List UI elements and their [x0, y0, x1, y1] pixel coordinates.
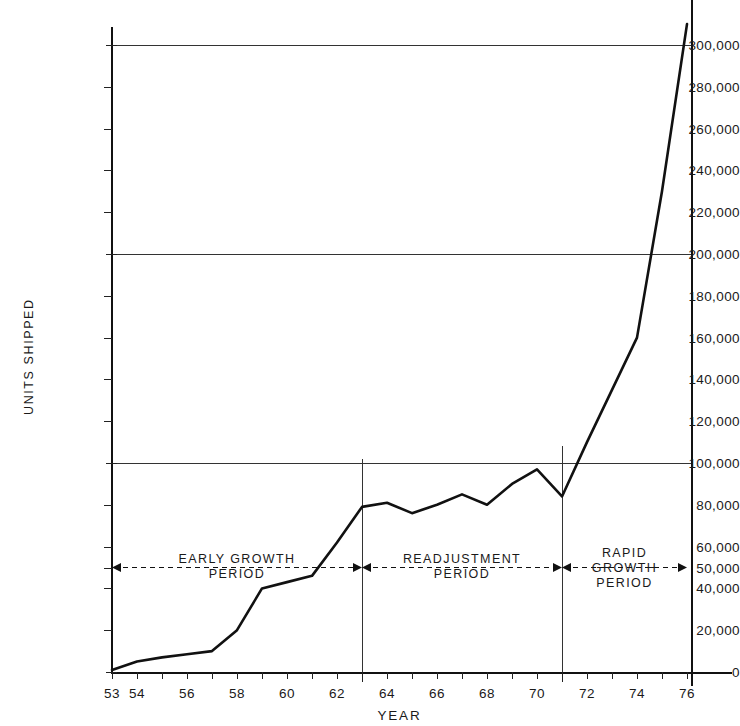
gridline-100000 [112, 463, 691, 464]
annotation-arrowhead [362, 563, 371, 572]
x-tick-64 [387, 672, 388, 679]
annotation-arrowhead [353, 563, 362, 572]
y-tick-100000 [106, 463, 117, 464]
x-tick-63 [362, 672, 363, 682]
x-tick-57 [212, 672, 213, 679]
y-tick-label-80000: 80,000 [642, 497, 740, 512]
gridline-300000 [112, 45, 691, 46]
y-tick-label-120000: 120,000 [642, 414, 740, 429]
period-divider-63 [362, 459, 363, 672]
x-tick-56 [187, 672, 188, 679]
x-tick-59 [262, 672, 263, 679]
x-tick-62 [337, 672, 338, 679]
chart-root: UNITS SHIPPED 020,00040,00050,00060,0008… [0, 0, 740, 726]
y-tick-label-280000: 280,000 [642, 79, 740, 94]
y-axis-line [111, 27, 113, 674]
y-tick-60000 [104, 547, 112, 548]
x-tick-71 [562, 672, 563, 682]
y-tick-label-240000: 240,000 [642, 163, 740, 178]
x-tick-58 [237, 672, 238, 679]
x-tick-66 [437, 672, 438, 679]
x-tick-label-68: 68 [479, 686, 495, 701]
x-axis-line [112, 672, 732, 674]
y-tick-300000 [106, 45, 117, 46]
period-divider-71 [562, 446, 563, 672]
x-tick-label-62: 62 [329, 686, 345, 701]
y-tick-label-300000: 300,000 [642, 38, 740, 53]
x-tick-65 [412, 672, 413, 679]
x-tick-label-66: 66 [429, 686, 445, 701]
annotation-arrowhead [562, 563, 571, 572]
y-tick-240000 [104, 170, 112, 171]
x-tick-label-74: 74 [629, 686, 645, 701]
annotation-label-rapid-growth: RAPID GROWTH PERIOD [592, 546, 657, 591]
annotation-label-early-growth: EARLY GROWTH PERIOD [178, 552, 295, 582]
x-axis-title: YEAR [378, 708, 422, 723]
x-tick-61 [312, 672, 313, 679]
x-tick-60 [287, 672, 288, 679]
y-tick-180000 [104, 296, 112, 297]
annotation-arrowhead [112, 563, 121, 572]
x-tick-label-60: 60 [279, 686, 295, 701]
x-tick-label-53: 53 [104, 686, 120, 701]
y-tick-label-20000: 20,000 [642, 623, 740, 638]
x-tick-label-58: 58 [229, 686, 245, 701]
y-tick-200000 [106, 254, 117, 255]
x-tick-label-70: 70 [529, 686, 545, 701]
y-tick-label-260000: 260,000 [642, 121, 740, 136]
y-tick-80000 [104, 505, 112, 506]
x-tick-55 [162, 672, 163, 679]
y-tick-50000 [104, 568, 112, 569]
y-tick-label-180000: 180,000 [642, 288, 740, 303]
y-tick-140000 [104, 379, 112, 380]
y-tick-40000 [104, 588, 112, 589]
x-tick-label-64: 64 [379, 686, 395, 701]
x-tick-label-76: 76 [679, 686, 695, 701]
x-tick-74 [637, 672, 638, 679]
annotation-arrowhead [553, 563, 562, 572]
y-tick-label-0: 0 [642, 665, 740, 680]
annotation-label-readjustment: READJUSTMENT PERIOD [403, 552, 521, 582]
x-tick-70 [537, 672, 538, 679]
x-tick-72 [587, 672, 588, 679]
y-tick-160000 [104, 338, 112, 339]
y-tick-220000 [104, 212, 112, 213]
y-tick-label-160000: 160,000 [642, 330, 740, 345]
y-tick-label-100000: 100,000 [642, 456, 740, 471]
y-tick-label-220000: 220,000 [642, 205, 740, 220]
x-tick-label-72: 72 [579, 686, 595, 701]
x-tick-67 [462, 672, 463, 679]
y-tick-260000 [104, 129, 112, 130]
y-tick-label-200000: 200,000 [642, 247, 740, 262]
y-tick-280000 [104, 87, 112, 88]
x-tick-label-54: 54 [129, 686, 145, 701]
gridline-200000 [112, 254, 691, 255]
y-axis-title: UNITS SHIPPED [22, 298, 36, 415]
y-tick-120000 [104, 421, 112, 422]
y-tick-20000 [104, 630, 112, 631]
x-tick-54 [137, 672, 138, 679]
x-tick-69 [512, 672, 513, 679]
x-tick-68 [487, 672, 488, 679]
x-tick-53 [112, 672, 113, 679]
x-tick-label-56: 56 [179, 686, 195, 701]
x-tick-73 [612, 672, 613, 679]
y-tick-label-140000: 140,000 [642, 372, 740, 387]
